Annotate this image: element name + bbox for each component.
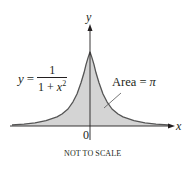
- area-label-text: Area =: [112, 75, 150, 89]
- area-label-symbol: π: [150, 75, 156, 89]
- equation-denominator: 1 + x2: [38, 78, 66, 93]
- denominator-base: 1 +: [38, 80, 57, 94]
- equation-equals: =: [27, 71, 34, 87]
- area-label: Area = π: [112, 75, 156, 90]
- denominator-exp: 2: [62, 79, 66, 88]
- equation-fraction: 1 1 + x2: [37, 64, 67, 93]
- y-axis-label: y: [86, 10, 91, 25]
- x-axis-label: x: [176, 119, 181, 134]
- equation-numerator: 1: [49, 64, 55, 77]
- equation-lhs: y: [18, 71, 24, 87]
- origin-label: 0: [83, 128, 89, 143]
- scale-note: NOT TO SCALE: [64, 149, 121, 158]
- x-axis-arrow-icon: [168, 124, 175, 129]
- y-axis-arrow-icon: [88, 24, 93, 31]
- curve-equation: y = 1 1 + x2: [18, 64, 67, 93]
